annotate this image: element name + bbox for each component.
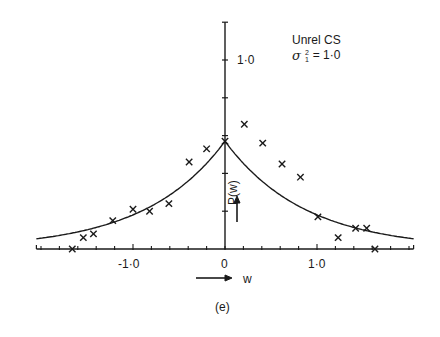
- data-point-x-marker: [203, 146, 209, 152]
- data-point-x-marker: [260, 140, 266, 146]
- y-axis-label: P(w): [226, 180, 240, 205]
- x-axis-label: w: [243, 272, 252, 286]
- data-point-x-marker: [90, 231, 96, 237]
- data-point-x-marker: [241, 121, 247, 127]
- axis-arrows: [196, 196, 240, 281]
- sigma-symbol: σ: [292, 48, 301, 63]
- data-point-x-marker: [279, 161, 285, 167]
- legend-variance: σ 2 1 = 1·0: [292, 48, 341, 63]
- x-tick-label-0: 0: [221, 257, 228, 271]
- data-point-x-marker: [130, 206, 136, 212]
- figure-caption: (e): [215, 300, 230, 314]
- data-point-x-marker: [80, 234, 86, 240]
- x-arrowhead-icon: [225, 275, 232, 281]
- data-point-x-marker: [297, 174, 303, 180]
- sigma-indices: 2 1: [305, 49, 309, 63]
- x-tick-label-1: 1·0: [308, 257, 325, 271]
- data-point-x-marker: [186, 159, 192, 165]
- legend: Unrel CS σ 2 1 = 1·0: [292, 33, 341, 63]
- sigma-value: = 1·0: [313, 48, 341, 63]
- data-points: [69, 121, 378, 252]
- y-tick-label-1: 1·0: [237, 53, 254, 67]
- chart-plot: [0, 0, 440, 337]
- data-point-x-marker: [166, 200, 172, 206]
- sigma-sub: 1: [305, 56, 309, 63]
- sigma-sup: 2: [305, 49, 309, 56]
- data-point-x-marker: [146, 208, 152, 214]
- axes: [36, 22, 413, 250]
- legend-title: Unrel CS: [292, 33, 341, 48]
- data-point-x-marker: [335, 234, 341, 240]
- x-tick-label-neg1: -1·0: [118, 257, 139, 271]
